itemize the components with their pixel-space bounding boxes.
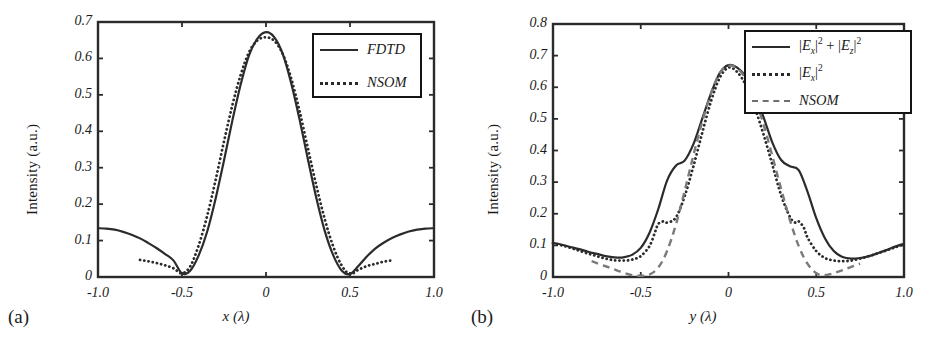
x-tick-label: 0.5: [790, 285, 842, 301]
y-tick-label: 0.6: [48, 49, 92, 65]
x-tick-label: 0: [703, 285, 755, 301]
legend-row-ex2: |Ex|2: [752, 64, 902, 83]
panel-a-x-axis-label: x (λ): [223, 308, 250, 325]
legend-row-fdtd: FDTD: [320, 40, 412, 59]
line-sample-dashed-icon: [752, 95, 790, 107]
y-tick-label: 0.5: [48, 86, 92, 102]
y-tick-label: 0.2: [503, 205, 547, 221]
line-sample-dotted-icon: [320, 77, 358, 89]
panel-b-tag: (b): [471, 306, 493, 328]
legend-label-ex2-plus-ez2: |Ex|2 + |Ez|2: [799, 37, 861, 56]
y-tick-label: 0.5: [503, 110, 547, 126]
panel-b-x-axis-label: y (λ): [690, 308, 717, 325]
y-tick-label: 0.8: [503, 15, 547, 31]
legend-label-nsom: NSOM: [799, 93, 838, 108]
y-tick-label: 0.4: [48, 122, 92, 138]
legend-row-nsom: NSOM: [752, 91, 902, 110]
y-tick-label: 0.6: [503, 78, 547, 94]
legend-row-nsom: NSOM: [320, 73, 412, 92]
line-sample-solid-icon: [320, 44, 358, 56]
legend-label-ex2: |Ex|2: [799, 64, 823, 83]
panel-a-legend: FDTD NSOM: [312, 33, 422, 98]
panel-b-y-axis-label: Intensity (a.u.): [485, 124, 502, 215]
panel-a-y-axis-label: Intensity (a.u.): [24, 124, 41, 215]
x-tick-label: 1.0: [408, 285, 460, 301]
panel-b-legend: |Ex|2 + |Ez|2 |Ex|2 NSOM: [744, 30, 912, 114]
x-tick-label: -0.5: [156, 285, 208, 301]
y-tick-label: 0: [503, 268, 547, 284]
legend-row-ex2-plus-ez2: |Ex|2 + |Ez|2: [752, 37, 902, 56]
x-tick-label: -1.0: [72, 285, 124, 301]
x-tick-label: -1.0: [527, 285, 579, 301]
panel-a: Intensity (a.u.) x (λ) (a) FDTD NSOM 00.…: [0, 0, 463, 346]
panel-b: Intensity (a.u.) y (λ) (b) |Ex|2 + |Ez|2…: [463, 0, 926, 346]
y-tick-label: 0.7: [503, 47, 547, 63]
y-tick-label: 0.7: [48, 13, 92, 29]
y-tick-label: 0.3: [48, 159, 92, 175]
x-tick-label: 1.0: [878, 285, 926, 301]
line-sample-dotted-icon: [752, 68, 790, 80]
x-tick-label: 0.5: [324, 285, 376, 301]
y-tick-label: 0.1: [48, 232, 92, 248]
x-tick-label: -0.5: [615, 285, 667, 301]
y-tick-label: 0.1: [503, 236, 547, 252]
y-tick-label: 0.4: [503, 142, 547, 158]
y-tick-label: 0: [48, 268, 92, 284]
line-sample-solid-icon: [752, 41, 790, 53]
y-tick-label: 0.3: [503, 173, 547, 189]
y-tick-label: 0.2: [48, 195, 92, 211]
figure-container: Intensity (a.u.) x (λ) (a) FDTD NSOM 00.…: [0, 0, 926, 346]
legend-label-fdtd: FDTD: [367, 42, 405, 57]
legend-label-nsom: NSOM: [367, 75, 406, 90]
x-tick-label: 0: [240, 285, 292, 301]
panel-a-tag: (a): [8, 306, 29, 328]
